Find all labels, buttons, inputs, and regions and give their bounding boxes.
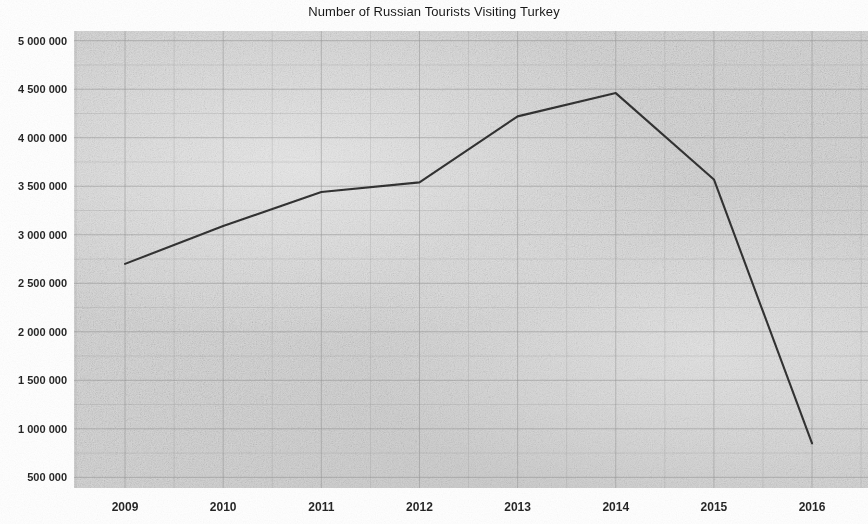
x-axis-tick-label: 2015 [684,500,744,514]
y-axis-tick-label: 3 500 000 [0,180,67,192]
x-axis-tick-label: 2009 [95,500,155,514]
x-axis-tick-label: 2010 [193,500,253,514]
x-axis-tick-label: 2012 [389,500,449,514]
y-axis-tick-label: 5 000 000 [0,35,67,47]
y-axis-tick-label: 2 000 000 [0,326,67,338]
data-line [74,31,868,488]
x-axis-tick-label: 2011 [291,500,351,514]
plot-area [74,31,868,488]
x-axis-tick-label: 2013 [488,500,548,514]
y-axis-tick-label: 3 000 000 [0,229,67,241]
y-axis-tick-label: 2 500 000 [0,277,67,289]
x-axis-tick-label: 2016 [782,500,842,514]
chart-title: Number of Russian Tourists Visiting Turk… [0,4,868,19]
y-axis-tick-label: 4 500 000 [0,83,67,95]
series-russian-tourists [125,93,812,443]
chart-figure: Number of Russian Tourists Visiting Turk… [0,0,868,524]
y-axis-tick-label: 500 000 [0,471,67,483]
x-axis-tick-label: 2014 [586,500,646,514]
y-axis-tick-label: 1 500 000 [0,374,67,386]
y-axis-tick-label: 1 000 000 [0,423,67,435]
y-axis-tick-label: 4 000 000 [0,132,67,144]
